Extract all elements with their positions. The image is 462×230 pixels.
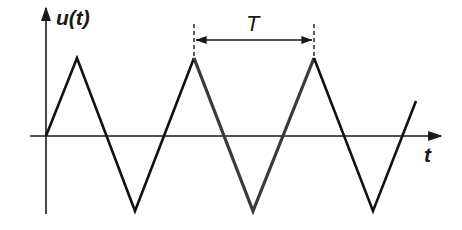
x-axis-label: t [424, 143, 432, 166]
period-label: T [246, 11, 261, 36]
triangle-wave-end [314, 58, 416, 211]
triangle-wave-diagram: u(t) t T [0, 0, 462, 230]
triangle-wave-start [46, 58, 194, 211]
triangle-wave-highlighted-period [194, 58, 314, 211]
y-axis-label: u(t) [56, 6, 90, 29]
